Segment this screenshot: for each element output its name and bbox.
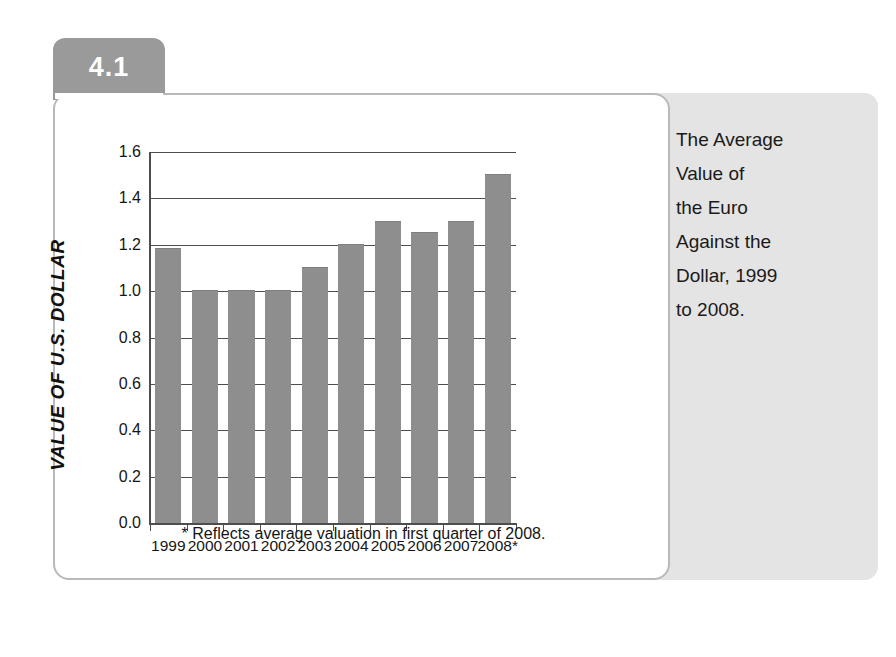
bar [411, 232, 437, 523]
plot-area: 1.61.41.21.00.80.60.40.20.01999200020012… [150, 152, 516, 523]
y-axis-tick-label: 0.6 [119, 375, 141, 393]
bar [485, 174, 511, 523]
bar [265, 290, 291, 523]
y-axis-title: VALUE OF U.S. DOLLAR [47, 205, 69, 505]
figure-number-label: 4.1 [53, 52, 165, 83]
figure-4-1: The Average Value of the Euro Against th… [0, 0, 896, 657]
y-axis-tick-label: 0.4 [119, 421, 141, 439]
tab-card-merge [55, 93, 163, 99]
caption-panel: The Average Value of the Euro Against th… [648, 93, 878, 580]
figure-number-tab: 4.1 [53, 38, 165, 100]
gridline [150, 198, 516, 199]
bar [338, 244, 364, 523]
chart-footnote: * Reflects average valuation in first qu… [55, 525, 672, 543]
bar [228, 290, 254, 523]
gridline [150, 152, 516, 153]
y-axis-tick-label: 1.4 [119, 189, 141, 207]
y-axis-tick-label: 1.2 [119, 236, 141, 254]
y-axis-tick-label: 1.6 [119, 143, 141, 161]
bar [192, 290, 218, 523]
bar [375, 221, 401, 523]
y-axis-tick-label: 0.8 [119, 329, 141, 347]
y-axis-tick-label: 1.0 [119, 282, 141, 300]
chart-card: VALUE OF U.S. DOLLAR 1.61.41.21.00.80.60… [53, 93, 670, 580]
plot-wrapper: VALUE OF U.S. DOLLAR 1.61.41.21.00.80.60… [55, 95, 672, 582]
bar [302, 267, 328, 523]
bar [155, 248, 181, 523]
y-axis-tick-label: 0.2 [119, 468, 141, 486]
figure-caption: The Average Value of the Euro Against th… [676, 123, 848, 327]
bar [448, 221, 474, 523]
